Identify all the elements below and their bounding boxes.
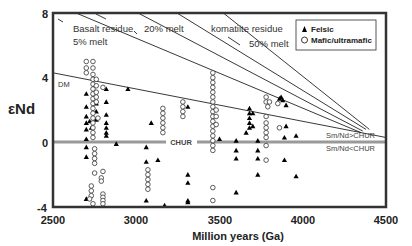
mafic-point <box>94 95 99 100</box>
mafic-point <box>146 172 151 177</box>
felsic-point <box>284 124 289 129</box>
mafic-point <box>264 143 269 148</box>
felsic-point <box>234 156 239 161</box>
basalt-residue-label: Basalt residue <box>73 23 133 34</box>
reference-line <box>53 73 386 138</box>
mafic-point <box>89 189 94 194</box>
mafic-point <box>161 125 166 130</box>
felsic-point <box>255 138 260 143</box>
mafic-point <box>264 135 269 140</box>
felsic-point <box>234 190 239 195</box>
mafic-point <box>267 100 272 105</box>
y-tick-4: 4 <box>42 72 49 84</box>
x-tick-4000: 4000 <box>291 214 315 226</box>
data-points <box>84 59 299 207</box>
mafic-point <box>211 138 216 143</box>
mafic-point <box>94 100 99 105</box>
mafic-point <box>264 114 269 119</box>
felsic-point <box>185 180 190 185</box>
chur-label: CHUR <box>170 138 192 147</box>
x-tick-3000: 3000 <box>124 214 148 226</box>
felsic-point <box>244 130 249 135</box>
mafic-point <box>264 95 269 100</box>
felsic-point <box>284 103 289 108</box>
felsic-point <box>234 138 239 143</box>
felsic-point <box>149 120 154 125</box>
felsic-point <box>84 104 89 109</box>
felsic-point <box>144 159 149 164</box>
mafic-point <box>265 104 270 109</box>
mafic-point <box>146 187 151 192</box>
legend: Felsic Mafic/ultramafic <box>296 20 376 50</box>
mafic-point <box>211 95 216 100</box>
mafic-point <box>211 143 216 148</box>
felsic-point <box>185 104 190 109</box>
felsic-point <box>104 112 109 117</box>
mafic-point <box>181 109 186 114</box>
mafic-point <box>91 121 96 126</box>
mafic-point <box>101 201 106 206</box>
mafic-point <box>91 116 96 121</box>
mafic-point <box>91 135 96 140</box>
mafic-point <box>91 59 96 64</box>
melt-20-label: 20% melt <box>144 23 184 34</box>
mafic-point <box>211 100 216 105</box>
mafic-point <box>94 83 99 88</box>
felsic-point <box>282 158 287 163</box>
x-tick-3500: 3500 <box>208 214 232 226</box>
mafic-point <box>87 197 92 202</box>
x-axis-label: Million years (Ga) <box>192 230 284 242</box>
mafic-point <box>92 151 97 156</box>
mafic-point <box>211 129 216 134</box>
mafic-point <box>181 100 186 105</box>
felsic-point <box>84 137 89 142</box>
mafic-point <box>264 125 269 130</box>
mafic-point <box>146 177 151 182</box>
mafic-point <box>91 72 96 77</box>
mafic-point <box>211 75 216 80</box>
mafic-point <box>211 85 216 90</box>
mafic-point <box>94 90 99 95</box>
felsic-point <box>293 133 298 138</box>
y-tick-neg4: -4 <box>37 202 48 214</box>
mafic-point <box>92 171 97 176</box>
felsic-point <box>84 127 89 132</box>
legend-box <box>296 20 376 50</box>
mafic-point <box>161 121 166 126</box>
mafic-point <box>211 80 216 85</box>
felsic-point <box>84 154 89 159</box>
mafic-point <box>214 122 219 127</box>
mafic-point <box>91 125 96 130</box>
y-tick-8: 8 <box>42 8 48 20</box>
mafic-point <box>161 130 166 135</box>
mafic-point <box>101 85 106 90</box>
felsic-point <box>185 172 190 177</box>
mafic-point <box>91 106 96 111</box>
mafic-point <box>161 111 166 116</box>
mafic-point <box>181 104 186 109</box>
mafic-point <box>277 125 282 130</box>
mafic-point <box>161 116 166 121</box>
mafic-point <box>91 111 96 116</box>
y-axis-label: εNd <box>8 100 35 117</box>
felsic-point <box>104 125 109 130</box>
felsic-point <box>84 114 89 119</box>
mafic-point <box>91 66 96 71</box>
felsic-point <box>217 137 222 142</box>
mafic-point <box>92 156 97 161</box>
melt-50-label: 50% melt <box>249 38 289 49</box>
felsic-point <box>144 198 149 203</box>
mafic-point <box>211 134 216 139</box>
mafic-point <box>101 169 106 174</box>
mafic-point <box>214 114 219 119</box>
felsic-point <box>247 115 252 120</box>
mafic-point <box>99 179 104 184</box>
mafic-point <box>264 158 269 163</box>
mafic-point <box>211 148 216 153</box>
dm-label: DM <box>58 80 70 89</box>
felsic-point <box>282 135 287 140</box>
felsic-point <box>255 172 260 177</box>
felsic-point <box>104 120 109 125</box>
x-tick-2500: 2500 <box>41 214 65 226</box>
felsic-point <box>104 99 109 104</box>
